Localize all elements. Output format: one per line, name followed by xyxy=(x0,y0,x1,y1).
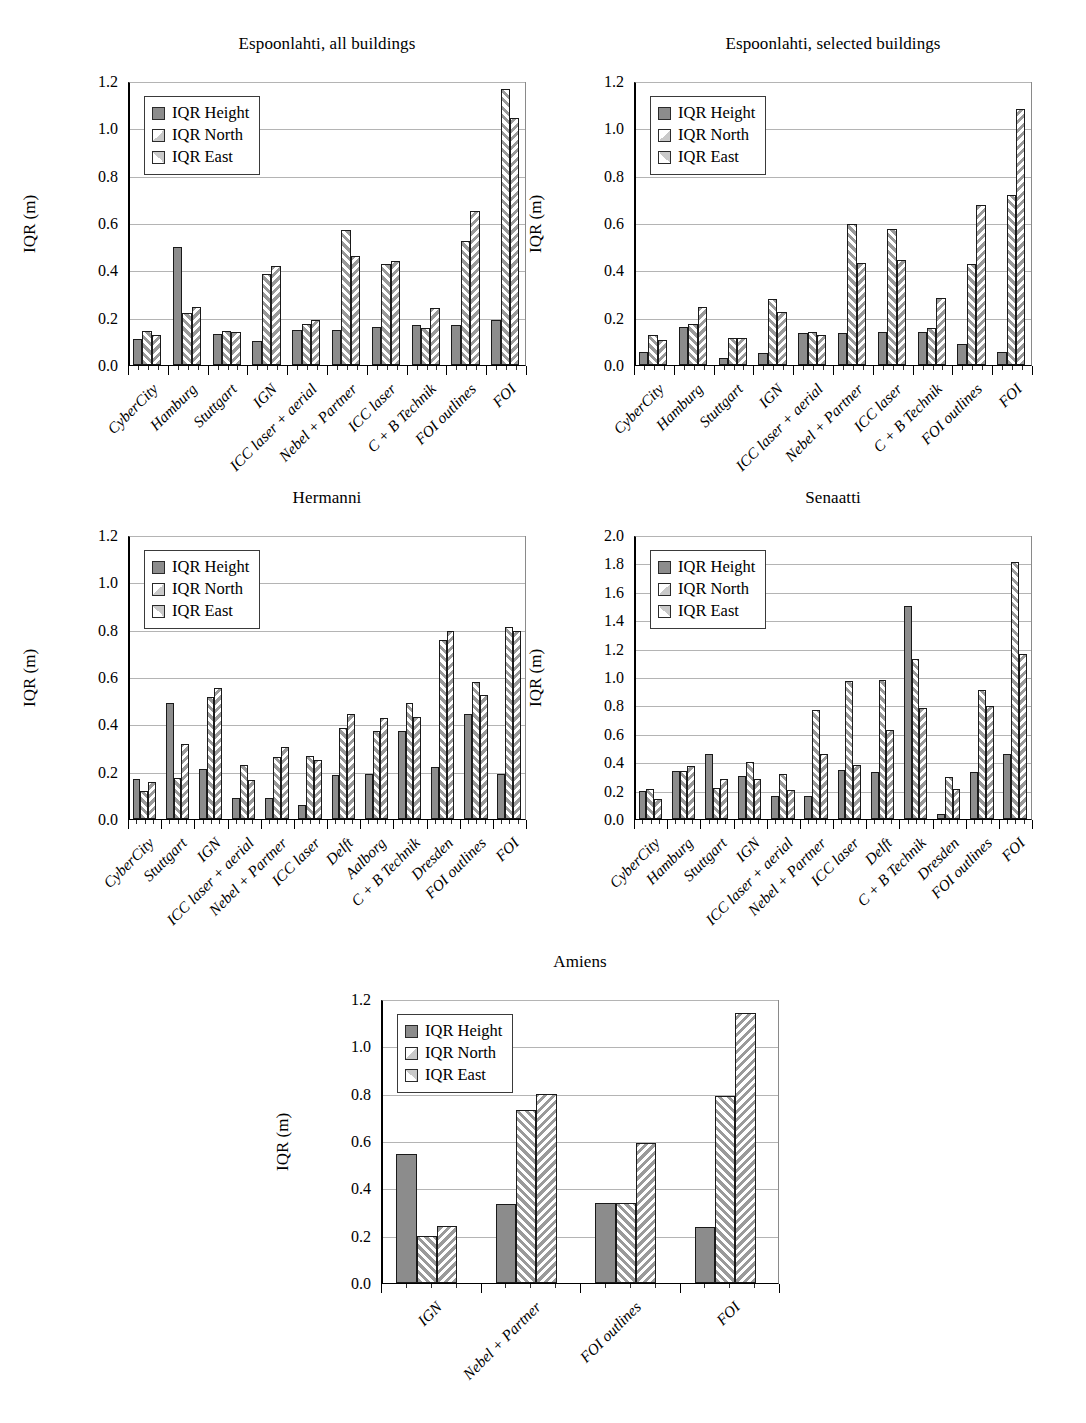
bar-height xyxy=(878,332,887,365)
x-minor-tick xyxy=(874,820,875,824)
x-minor-tick xyxy=(357,366,358,370)
bar-north xyxy=(381,264,390,365)
x-minor-tick xyxy=(377,366,378,370)
x-minor-tick xyxy=(949,820,950,824)
x-minor-tick xyxy=(297,366,298,370)
x-axis-ticks xyxy=(634,366,1032,378)
legend-swatch-icon xyxy=(152,107,165,120)
x-minor-tick xyxy=(823,366,824,370)
bar-north xyxy=(945,777,953,819)
bar-group xyxy=(875,83,915,365)
bar-height xyxy=(937,814,945,819)
y-tick-label: 0.8 xyxy=(98,168,118,186)
bar-group xyxy=(954,83,994,365)
legend-item[interactable]: IQR Height xyxy=(658,102,755,124)
legend-item[interactable]: IQR Height xyxy=(658,556,755,578)
legend-label: IQR East xyxy=(172,147,233,167)
legend-item[interactable]: IQR Height xyxy=(405,1020,502,1042)
bar-group xyxy=(1001,537,1034,819)
x-minor-tick xyxy=(933,366,934,370)
y-tick-label: 0.0 xyxy=(98,357,118,375)
x-axis-labels: CyberCityStuttgartIGNICC laser + aerialN… xyxy=(128,834,526,954)
legend-item[interactable]: IQR North xyxy=(658,578,755,600)
x-minor-tick xyxy=(883,366,884,370)
x-minor-tick xyxy=(783,820,784,824)
bar-height xyxy=(173,247,182,365)
x-axis-labels: CyberCityHamburgStuttgartIGNICC laser + … xyxy=(634,834,1032,954)
x-tick-label: Stuttgart xyxy=(190,380,241,431)
legend-item[interactable]: IQR North xyxy=(658,124,755,146)
bar-north xyxy=(847,224,856,365)
legend-swatch-icon xyxy=(152,129,165,142)
y-axis-ticks: 0.00.20.40.60.81.01.2 xyxy=(263,1000,371,1284)
legend-item[interactable]: IQR North xyxy=(152,124,249,146)
x-major-tick xyxy=(1032,820,1033,829)
bar-north xyxy=(812,710,820,819)
bar-height xyxy=(798,333,807,365)
legend-item[interactable]: IQR Height xyxy=(152,556,249,578)
x-major-tick xyxy=(913,366,914,375)
legend-swatch-icon xyxy=(658,605,671,618)
x-minor-tick xyxy=(178,366,179,370)
x-minor-tick xyxy=(1012,366,1013,370)
legend-label: IQR North xyxy=(172,579,243,599)
bar-east xyxy=(886,730,894,819)
legend-item[interactable]: IQR East xyxy=(152,146,249,168)
bar-group xyxy=(263,537,296,819)
x-major-tick xyxy=(753,366,754,375)
x-minor-tick xyxy=(466,366,467,370)
legend-item[interactable]: IQR East xyxy=(658,600,755,622)
bar-north xyxy=(207,697,215,819)
bar-height xyxy=(166,703,174,819)
legend-item[interactable]: IQR East xyxy=(152,600,249,622)
x-axis-ticks xyxy=(128,366,526,378)
x-minor-tick xyxy=(436,366,437,370)
x-minor-tick xyxy=(347,366,348,370)
bar-east xyxy=(720,779,728,819)
x-minor-tick xyxy=(145,820,146,824)
y-tick-label: 0.6 xyxy=(604,726,624,744)
legend: IQR HeightIQR NorthIQR East xyxy=(144,550,260,629)
x-major-tick xyxy=(427,820,428,829)
legend-swatch-icon xyxy=(405,1069,418,1082)
legend-label: IQR North xyxy=(678,579,749,599)
x-minor-tick xyxy=(763,366,764,370)
x-tick-label: Nebel + Partner xyxy=(460,1298,545,1383)
bar-group xyxy=(409,83,449,365)
legend-item[interactable]: IQR East xyxy=(658,146,755,168)
bar-north xyxy=(417,1236,437,1283)
bar-east xyxy=(636,1143,656,1283)
x-tick-label: FOI xyxy=(998,834,1029,865)
x-minor-tick xyxy=(188,366,189,370)
bar-north xyxy=(516,1110,536,1283)
x-minor-tick xyxy=(352,820,353,824)
legend-swatch-icon xyxy=(152,605,165,618)
x-minor-tick xyxy=(456,1284,457,1288)
x-minor-tick xyxy=(417,366,418,370)
bar-height xyxy=(292,330,301,366)
x-major-tick xyxy=(952,366,953,375)
bar-height xyxy=(412,325,421,365)
x-minor-tick xyxy=(219,820,220,824)
y-axis-ticks: 0.00.20.40.60.81.01.2 xyxy=(10,82,118,366)
x-minor-tick xyxy=(476,366,477,370)
y-tick-label: 1.0 xyxy=(604,120,624,138)
x-minor-tick xyxy=(236,820,237,824)
legend-label: IQR East xyxy=(678,147,739,167)
y-tick-label: 0.2 xyxy=(604,310,624,328)
legend-item[interactable]: IQR East xyxy=(405,1064,502,1086)
legend-label: IQR Height xyxy=(172,557,249,577)
x-minor-tick xyxy=(916,820,917,824)
x-minor-tick xyxy=(758,820,759,824)
x-minor-tick xyxy=(505,1284,506,1288)
plot-area: IQR (m)0.00.20.40.60.81.01.21.41.61.82.0… xyxy=(516,510,1046,950)
bar-north xyxy=(779,774,787,819)
y-tick-label: 0.8 xyxy=(98,622,118,640)
bar-east xyxy=(658,340,667,365)
bar-group xyxy=(329,537,362,819)
legend-item[interactable]: IQR North xyxy=(152,578,249,600)
legend-label: IQR Height xyxy=(172,103,249,123)
legend-item[interactable]: IQR Height xyxy=(152,102,249,124)
x-minor-tick xyxy=(344,820,345,824)
legend-item[interactable]: IQR North xyxy=(405,1042,502,1064)
